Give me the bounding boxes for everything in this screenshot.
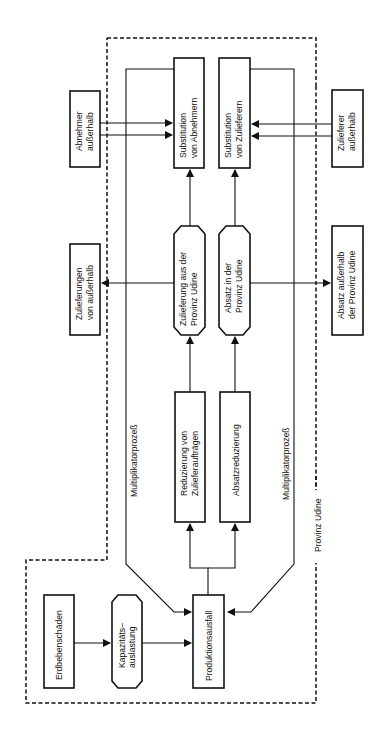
node-reduzierung-zulieferauftraege: Reduzierung von Zulieferaufträgen	[175, 392, 205, 522]
node-absatzreduzierung: Absatzreduzierung	[220, 392, 250, 522]
node-zulieferung-provinz: Zulieferung aus der Provinz Udine	[174, 226, 205, 335]
svg-text:Absatz in der: Absatz in der	[223, 263, 233, 313]
node-produktionsausfall: Produktionsausfall	[193, 595, 224, 688]
svg-text:Kapazitäts–: Kapazitäts–	[117, 623, 127, 668]
svg-text:Erdbebenschäden: Erdbebenschäden	[54, 610, 64, 680]
node-zulieferungen-ausserhalb: Zulieferungen von außerhalb	[70, 244, 100, 335]
node-abnehmer-ausserhalb: Abnehmer außerhalb	[70, 91, 100, 167]
svg-text:außerhalb: außerhalb	[85, 112, 95, 151]
node-kapazitaetsauslastung: Kapazitäts– auslastung	[112, 595, 142, 688]
arrow-produktion-absatzreduzierung	[208, 524, 235, 568]
svg-text:Zulieferaufträgen: Zulieferaufträgen	[190, 431, 200, 496]
node-substitution-zulieferern: Substitution von Zulieferern	[219, 58, 250, 168]
svg-text:Produktionsausfall: Produktionsausfall	[204, 611, 214, 681]
svg-text:Substitution: Substitution	[223, 113, 233, 158]
svg-text:Provinz Udine: Provinz Udine	[234, 259, 244, 313]
svg-text:Absatzreduzierung: Absatzreduzierung	[231, 424, 241, 496]
node-substitution-abnehmern: Substitution von Abnehmern	[174, 58, 204, 168]
svg-text:Provinz Udine: Provinz Udine	[189, 272, 199, 326]
node-absatz-ausserhalb: Absatz außerhalb der Provinz Udine	[332, 226, 363, 335]
svg-text:Absatz außerhalb: Absatz außerhalb	[336, 251, 346, 319]
svg-text:Abnehmer: Abnehmer	[74, 111, 84, 151]
svg-text:von Abnehmern: von Abnehmern	[189, 98, 199, 158]
node-absatz-provinz: Absatz in der Provinz Udine	[219, 226, 250, 335]
svg-text:Substitution: Substitution	[178, 113, 188, 158]
svg-text:Zulieferer: Zulieferer	[336, 115, 346, 151]
multiplikator-right-label: Multiplikatorprozeß	[281, 427, 291, 500]
svg-text:Zulieferungen: Zulieferungen	[74, 267, 84, 320]
svg-text:Zulieferung aus der: Zulieferung aus der	[178, 252, 188, 326]
multiplikator-left-label: Multiplikatorprozeß	[129, 424, 139, 497]
boundary-label: Provinz Udine	[313, 498, 323, 552]
svg-text:außerhalb: außerhalb	[347, 112, 357, 151]
svg-text:auslastung: auslastung	[127, 626, 137, 668]
flow-diagram: Provinz Udine Multiplikatorprozeß Multip…	[0, 0, 381, 756]
svg-text:Reduzierung von: Reduzierung von	[179, 431, 189, 496]
svg-text:von außerhalb: von außerhalb	[85, 265, 95, 320]
node-zulieferer-ausserhalb: Zulieferer außerhalb	[332, 90, 363, 167]
svg-text:von Zulieferern: von Zulieferern	[234, 100, 244, 158]
node-erdbebenschaeden: Erdbebenschäden	[44, 595, 74, 688]
arrow-produktion-reduzierung	[190, 524, 208, 595]
svg-text:der Provinz Udine: der Provinz Udine	[347, 250, 357, 319]
